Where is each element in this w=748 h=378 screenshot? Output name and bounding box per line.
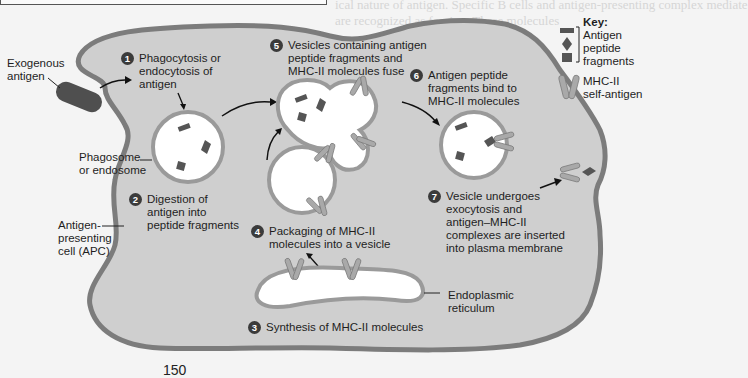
step-number-badge: 5 xyxy=(270,39,283,52)
step-7: 7 Vesicle undergoesexocytosis andantigen… xyxy=(428,190,565,255)
key-antigen-square xyxy=(562,53,572,62)
step-3: 3 Synthesis of MHC-II molecules xyxy=(248,321,423,334)
exogenous-antigen-shape xyxy=(53,79,105,116)
step-number-badge: 4 xyxy=(251,225,264,238)
apc-label: Antigen- presenting cell (APC) xyxy=(58,219,112,258)
step-number-badge: 3 xyxy=(248,321,261,334)
key-antigen-bar xyxy=(560,28,574,33)
step-6: 6 Antigen peptidefragments bind toMHC-II… xyxy=(410,69,519,108)
key-item-mhc-ii-self-antigen: MHC-II self-antigen xyxy=(583,75,642,101)
page-number: 150 xyxy=(163,362,186,378)
step-2: 2 Digestion ofantigen intopeptide fragme… xyxy=(129,193,239,232)
step-number-badge: 1 xyxy=(121,52,134,65)
step-1: 1 Phagocytosis orendocytosis ofantigen xyxy=(121,52,221,91)
exogenous-antigen-label: Exogenous antigen xyxy=(7,57,65,83)
key-item-antigen-peptide-fragments: Antigen peptide fragments xyxy=(583,29,634,68)
phagosome xyxy=(153,112,223,182)
step-number-badge: 7 xyxy=(428,190,441,203)
key-title: Key: xyxy=(583,16,608,28)
key-antigen-diamond xyxy=(562,37,572,51)
step-5: 5 Vesicles containing antigenpeptide fra… xyxy=(270,39,427,78)
mhc-vesicle xyxy=(269,147,335,213)
phagosome-label: Phagosome or endosome xyxy=(79,151,146,177)
er-label: Endoplasmic reticulum xyxy=(448,289,514,315)
step-number-badge: 2 xyxy=(129,193,142,206)
step-4: 4 Packaging of MHC-IImolecules into a ve… xyxy=(251,225,390,251)
step-number-badge: 6 xyxy=(410,69,423,82)
